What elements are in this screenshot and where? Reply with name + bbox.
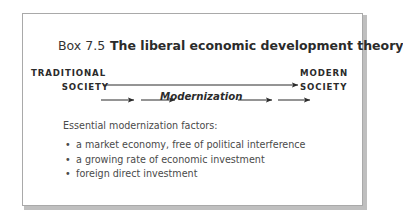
box-title-text: The liberal economic development theory: [110, 38, 403, 53]
list-item-label: a growing rate of economic investment: [76, 154, 265, 165]
modernization-label: Modernization: [160, 91, 236, 102]
box-title: Box 7.5The liberal economic development …: [58, 38, 403, 54]
modernization-diagram: TRADITIONAL SOCIETY MODERN SOCIETY Moder…: [22, 60, 363, 118]
list-item: •a market economy, free of political int…: [63, 138, 353, 153]
list-item: •foreign direct investment: [63, 167, 353, 182]
list-item-label: foreign direct investment: [76, 168, 197, 179]
list-item: •a growing rate of economic investment: [63, 153, 353, 168]
bullet-icon: •: [65, 153, 71, 168]
bullet-icon: •: [65, 167, 71, 182]
factors-list: •a market economy, free of political int…: [63, 138, 353, 182]
list-item-label: a market economy, free of political inte…: [76, 139, 306, 150]
box-number-label: Box 7.5: [58, 38, 105, 53]
bullet-icon: •: [65, 138, 71, 153]
essential-factors-block: Essential modernization factors: •a mark…: [63, 119, 353, 182]
diagram-arrows: [22, 60, 363, 118]
factors-intro-label: Essential modernization factors:: [63, 119, 353, 133]
